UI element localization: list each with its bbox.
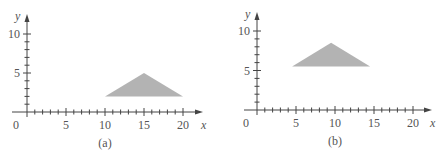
x-axis-arrow-icon	[195, 110, 203, 115]
x-tick-label: 20	[407, 116, 419, 130]
y-tick-label: 5	[14, 66, 20, 80]
y-tick-label: 10	[8, 27, 20, 41]
x-tick-label: 5	[63, 118, 69, 132]
x-tick-label: 0	[13, 118, 19, 132]
x-tick-label: 10	[99, 118, 111, 132]
y-axis-label: y	[244, 7, 251, 21]
panel-caption: (b)	[328, 134, 342, 148]
y-axis-label: y	[14, 9, 21, 23]
x-tick-label: 20	[177, 118, 189, 132]
y-axis-arrow-icon	[255, 12, 260, 20]
x-axis-label: x	[429, 116, 436, 130]
x-axis-arrow-icon	[424, 108, 432, 113]
x-tick-label: 5	[293, 116, 299, 130]
figure: 05101520510xy(a)05101520510xy(b)	[0, 0, 439, 154]
y-axis-arrow-icon	[25, 14, 30, 22]
x-axis-label: x	[200, 118, 207, 132]
x-tick-label: 15	[138, 118, 150, 132]
triangle-region	[292, 43, 370, 67]
x-tick-label: 15	[368, 116, 380, 130]
chart-panel-a: 05101520510xy(a)	[8, 9, 207, 150]
y-tick-label: 5	[244, 64, 250, 78]
triangle-region	[105, 73, 183, 96]
x-tick-label: 0	[243, 116, 249, 130]
y-tick-label: 10	[238, 24, 250, 38]
chart-panel-b: 05101520510xy(b)	[238, 7, 436, 148]
panel-caption: (a)	[98, 136, 111, 150]
x-tick-label: 10	[329, 116, 341, 130]
